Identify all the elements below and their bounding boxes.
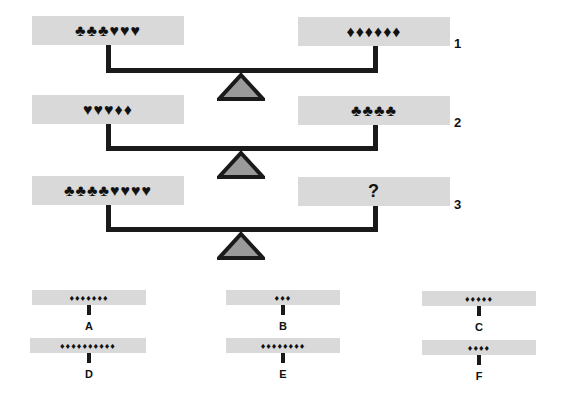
scale-2-left-pan: ♥♥♥♦♦ bbox=[32, 95, 184, 124]
option-c-pan: ♦♦♦♦♦ bbox=[422, 291, 536, 306]
option-a-stem bbox=[87, 305, 91, 315]
scale-3-left-pan: ♣♣♣♣♥♥♥♥ bbox=[32, 176, 184, 205]
option-b-stem bbox=[281, 305, 285, 315]
scale-3-right-pan-unknown: ? bbox=[298, 177, 450, 206]
option-d-pan: ♦♦♦♦♦♦♦♦♦♦ bbox=[30, 338, 146, 353]
scale-2-fulcrum-icon bbox=[217, 151, 265, 179]
option-f-label: F bbox=[469, 370, 489, 382]
scale-1-number: 1 bbox=[454, 36, 461, 51]
scale-2-number: 2 bbox=[454, 115, 461, 130]
option-e-pan: ♦♦♦♦♦♦♦♦ bbox=[226, 338, 340, 353]
scale-1-left-pan: ♣♣♣♥♥♥ bbox=[32, 16, 184, 45]
option-a-pan: ♦♦♦♦♦♦♦ bbox=[32, 290, 146, 305]
scale-3-number: 3 bbox=[454, 197, 461, 212]
option-b-label: B bbox=[273, 320, 293, 332]
option-f-stem bbox=[477, 355, 481, 365]
option-c-label: C bbox=[469, 321, 489, 333]
scale-3-fulcrum-icon bbox=[217, 232, 265, 260]
scale-1-right-pan: ♦♦♦♦♦♦ bbox=[298, 17, 450, 46]
option-a-label: A bbox=[79, 320, 99, 332]
option-e-label: E bbox=[273, 368, 293, 380]
option-d-stem bbox=[87, 353, 91, 363]
option-c-stem bbox=[477, 306, 481, 316]
scale-1-fulcrum-icon bbox=[217, 73, 265, 101]
scale-2-right-pan: ♣♣♣♣ bbox=[298, 96, 450, 125]
option-e-stem bbox=[281, 353, 285, 363]
option-b-pan: ♦♦♦ bbox=[226, 290, 340, 305]
option-d-label: D bbox=[79, 368, 99, 380]
option-f-pan: ♦♦♦♦ bbox=[422, 340, 536, 355]
